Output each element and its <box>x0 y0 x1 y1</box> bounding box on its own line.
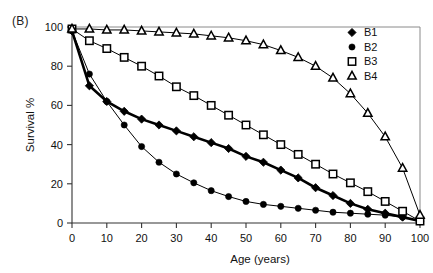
data-point-open-square <box>208 102 215 109</box>
figure-panel-b: (B) 0102030405060708090100020406080100 A… <box>0 0 433 273</box>
data-point-open-triangle <box>416 211 424 219</box>
data-point-filled-circle <box>156 159 162 165</box>
data-point-filled-circle <box>313 207 319 213</box>
data-point-filled-circle <box>365 211 371 217</box>
data-point-open-square <box>242 121 249 128</box>
data-point-filled-circle <box>243 198 249 204</box>
data-point-open-triangle <box>277 46 285 54</box>
data-point-filled-diamond <box>172 127 180 135</box>
data-point-open-square <box>121 54 128 61</box>
data-point-open-square <box>138 63 145 70</box>
data-point-open-square <box>295 151 302 158</box>
legend-label-B1: B1 <box>364 26 377 38</box>
data-point-filled-diamond <box>277 166 285 174</box>
legend-label-B4: B4 <box>364 70 377 82</box>
data-point-filled-circle <box>139 143 145 149</box>
y-tick-label: 60 <box>51 99 63 111</box>
data-point-filled-circle <box>330 209 336 215</box>
data-point-filled-diamond <box>242 152 250 160</box>
data-point-open-triangle <box>207 31 215 39</box>
data-point-open-triangle <box>311 62 319 70</box>
data-point-open-square <box>329 170 336 177</box>
data-point-filled-diamond <box>348 28 356 36</box>
legend-item-B1: B1 <box>348 26 378 38</box>
y-tick-label: 100 <box>45 21 63 33</box>
data-point-open-triangle <box>346 89 354 97</box>
data-point-open-square <box>225 112 232 119</box>
x-tick-label: 60 <box>275 232 287 244</box>
data-point-filled-circle <box>173 171 179 177</box>
data-point-open-triangle <box>259 40 267 48</box>
x-tick-label: 0 <box>69 232 75 244</box>
data-point-filled-circle <box>86 71 92 77</box>
data-point-filled-circle <box>191 180 197 186</box>
data-point-filled-diamond <box>207 139 215 147</box>
data-point-filled-circle <box>260 201 266 207</box>
data-point-filled-circle <box>208 188 214 194</box>
data-point-open-square <box>347 179 354 186</box>
data-point-open-triangle <box>85 24 93 32</box>
x-tick-label: 50 <box>240 232 252 244</box>
legend-label-B2: B2 <box>364 41 377 53</box>
data-point-filled-diamond <box>329 191 337 199</box>
x-tick-label: 10 <box>101 232 113 244</box>
data-point-open-triangle <box>348 71 356 79</box>
data-point-open-square <box>103 45 110 52</box>
data-point-open-square <box>173 83 180 90</box>
data-point-filled-diamond <box>346 199 354 207</box>
x-axis-title: Age (years) <box>230 253 290 265</box>
data-point-filled-diamond <box>138 115 146 123</box>
data-point-filled-circle <box>347 210 353 216</box>
data-point-filled-circle <box>349 44 355 50</box>
data-point-filled-circle <box>226 193 232 199</box>
data-point-open-square <box>277 141 284 148</box>
y-axis-title: Survival % <box>24 98 36 152</box>
data-point-open-square <box>348 58 355 65</box>
data-point-open-square <box>86 37 93 44</box>
legend-item-B2: B2 <box>349 41 378 53</box>
x-tick-label: 30 <box>170 232 182 244</box>
data-point-filled-circle <box>104 98 110 104</box>
x-tick-label: 80 <box>344 232 356 244</box>
data-point-open-triangle <box>172 28 180 36</box>
data-point-filled-diamond <box>259 158 267 166</box>
data-point-filled-circle <box>121 122 127 128</box>
y-tick-label: 40 <box>51 139 63 151</box>
x-tick-label: 20 <box>135 232 147 244</box>
x-tick-label: 70 <box>309 232 321 244</box>
data-point-filled-diamond <box>190 133 198 141</box>
data-point-open-square <box>260 131 267 138</box>
legend-item-B3: B3 <box>348 55 377 67</box>
x-tick-label: 40 <box>205 232 217 244</box>
data-point-open-square <box>364 188 371 195</box>
data-point-open-square <box>382 198 389 205</box>
legend-label-B3: B3 <box>364 55 377 67</box>
data-point-filled-diamond <box>155 121 163 129</box>
data-point-open-triangle <box>294 53 302 61</box>
y-tick-label: 80 <box>51 60 63 72</box>
data-point-open-triangle <box>329 73 337 81</box>
data-point-open-square <box>190 92 197 99</box>
data-point-open-triangle <box>398 164 406 172</box>
legend-item-B4: B4 <box>348 70 378 82</box>
data-point-open-triangle <box>224 33 232 41</box>
data-point-filled-circle <box>278 203 284 209</box>
data-point-open-square <box>312 161 319 168</box>
data-point-open-triangle <box>190 29 198 37</box>
data-point-open-triangle <box>242 36 250 44</box>
data-point-filled-diamond <box>225 144 233 152</box>
x-tick-label: 100 <box>411 232 429 244</box>
data-point-open-square <box>155 72 162 79</box>
chart-legend: B1B2B3B4 <box>348 26 378 82</box>
data-point-open-triangle <box>155 27 163 35</box>
data-point-filled-circle <box>382 212 388 218</box>
data-point-open-square <box>399 208 406 215</box>
x-tick-label: 90 <box>379 232 391 244</box>
data-point-filled-circle <box>295 205 301 211</box>
y-tick-label: 20 <box>51 178 63 190</box>
survival-chart: 0102030405060708090100020406080100 Age (… <box>0 0 433 273</box>
y-tick-label: 0 <box>57 217 63 229</box>
